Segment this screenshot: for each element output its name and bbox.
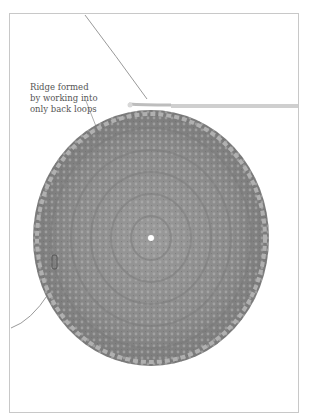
crochet-circle xyxy=(33,110,269,366)
callout-line-3: only back loops xyxy=(30,104,97,114)
crochet-photo xyxy=(10,14,299,413)
crochet-hook xyxy=(128,103,300,109)
yarn-tail xyxy=(11,293,49,328)
figure-frame: Ridge formed by working into only back l… xyxy=(9,13,299,413)
callout-label: Ridge formed by working into only back l… xyxy=(30,82,98,115)
callout-line-1: Ridge formed xyxy=(30,82,89,92)
callout-line-2: by working into xyxy=(30,93,98,103)
